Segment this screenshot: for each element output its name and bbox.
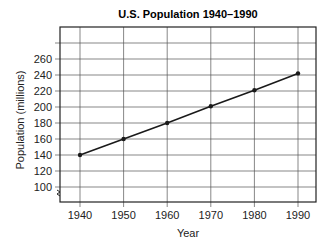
y-axis: 100120140160180200220240260 — [34, 53, 52, 193]
data-point — [209, 104, 213, 108]
x-tick-label: 1980 — [242, 209, 266, 221]
x-tick-label: 1960 — [155, 209, 179, 221]
x-tick-label: 1970 — [199, 209, 223, 221]
y-tick-label: 200 — [34, 101, 52, 113]
y-tick-label: 180 — [34, 117, 52, 129]
y-tick-label: 160 — [34, 133, 52, 145]
data-point — [121, 137, 125, 141]
y-axis-label: Population (millions) — [14, 70, 26, 169]
y-tick-label: 240 — [34, 69, 52, 81]
data-line — [80, 73, 298, 155]
x-tick-label: 1950 — [111, 209, 135, 221]
y-tick-label: 100 — [34, 181, 52, 193]
y-tick-label: 140 — [34, 149, 52, 161]
data-point — [78, 153, 82, 157]
y-tick-label: 260 — [34, 53, 52, 65]
y-tick-label: 120 — [34, 165, 52, 177]
chart-title: U.S. Population 1940–1990 — [118, 8, 257, 20]
data-point — [252, 88, 256, 92]
x-tick-label: 1990 — [286, 209, 310, 221]
y-tick-label: 220 — [34, 85, 52, 97]
x-axis: 194019501960197019801990 — [68, 209, 310, 221]
data-point — [296, 71, 300, 75]
x-axis-label: Year — [177, 227, 200, 239]
x-tick-label: 1940 — [68, 209, 92, 221]
line-chart: U.S. Population 1940–1990 10012014016018… — [0, 0, 335, 245]
data-point — [165, 121, 169, 125]
grid — [55, 27, 316, 207]
